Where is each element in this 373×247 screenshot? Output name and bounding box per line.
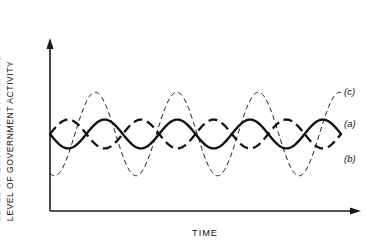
legend-label-b: (b) — [344, 153, 356, 164]
legend-label-c: (c) — [344, 86, 355, 97]
y-axis-arrowhead-icon — [46, 38, 53, 49]
y-axis-label-group: LEVEL OF ECONOMIC ACTIVITY AND LEVEL OF … — [2, 10, 42, 225]
y-axis-label-line-2: LEVEL OF GOVERNMENT ACTIVITY — [3, 54, 16, 221]
y-axis-label-line-1: LEVEL OF ECONOMIC ACTIVITY AND — [0, 54, 2, 221]
figure-container: LEVEL OF ECONOMIC ACTIVITY AND LEVEL OF … — [0, 0, 373, 247]
y-axis-label: LEVEL OF ECONOMIC ACTIVITY AND LEVEL OF … — [0, 54, 16, 221]
x-axis-label: TIME — [50, 228, 360, 238]
line-chart-plot — [0, 0, 373, 247]
y-axis — [46, 38, 53, 211]
curve-a-path — [50, 120, 341, 149]
legend-label-a: (a) — [344, 118, 356, 129]
x-axis-arrowhead-icon — [350, 208, 361, 215]
x-axis — [50, 208, 361, 215]
